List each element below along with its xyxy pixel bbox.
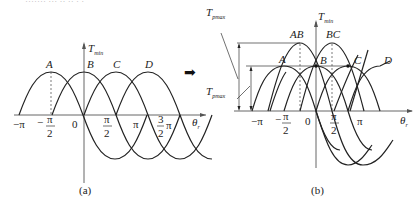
label-d: D [383, 54, 392, 66]
tick-pi: π [133, 118, 139, 130]
curve-d [348, 61, 390, 111]
curve-a [252, 66, 340, 150]
y-label-a: Tmin [88, 42, 103, 56]
caption-b: (b) [311, 184, 324, 197]
label-a: A [45, 58, 53, 70]
x-label-a: θr [192, 116, 200, 130]
graph-a: A B C D Tmin θr −π − π 2 0 π 2 π 3 2 π (… [13, 42, 212, 197]
tick-half-pi-den: 2 [104, 127, 110, 139]
curve-b [284, 66, 372, 150]
curve-rise-1 [270, 72, 286, 111]
label-b: B [320, 54, 327, 66]
caption-a: (a) [79, 184, 92, 197]
label-a: A [278, 53, 286, 65]
tick-neg-half-pi-den: 2 [283, 124, 289, 136]
tick-neg-sign: − [37, 116, 43, 128]
y-label-b: Tmin [318, 10, 333, 24]
x-axis-arrow-icon [407, 109, 413, 113]
label-tpmax-bottom: Tpmax [206, 85, 225, 99]
tick-three-half-num: 3 [158, 113, 164, 125]
curve-bc-low [316, 111, 372, 165]
arrow-up-icon [250, 66, 253, 71]
tick-half-pi-den: 2 [331, 124, 337, 136]
tick-neg-pi: −π [13, 118, 25, 130]
tick-half-pi-num: π [104, 113, 110, 125]
y-axis-arrow-icon [82, 42, 86, 49]
x-label-b: θr [400, 114, 408, 128]
leader-line [221, 33, 238, 79]
point-c [346, 64, 350, 68]
label-tpmax-top: Tpmax [206, 6, 225, 20]
tick-neg-half-pi-num: π [283, 110, 289, 122]
tick-neg-pi: −π [251, 115, 263, 127]
tick-pi: π [357, 115, 363, 127]
tick-neg-sign: − [275, 113, 281, 125]
figure-canvas: ······· ··· ·· ·· · · A B C D Tmin θr −π… [0, 0, 418, 206]
tick-three-half-pi: π [166, 119, 172, 131]
label-d: D [144, 58, 153, 70]
label-ab: AB [289, 28, 304, 40]
tick-neg-half-pi-num: π [47, 113, 53, 125]
right-arrow-icon: ➡ [184, 64, 196, 80]
label-c: C [354, 54, 362, 66]
cropped-top-text: ······· ··· ·· ·· · · [25, 0, 84, 6]
tick-three-half-den: 2 [158, 127, 164, 139]
label-c: C [113, 58, 121, 70]
label-b: B [87, 58, 94, 70]
x-axis-arrow-icon [200, 113, 206, 117]
tick-neg-half-pi-den: 2 [47, 127, 53, 139]
graph-b: Tpmax Tpmax [206, 6, 413, 197]
tick-zero: 0 [72, 118, 78, 130]
tick-zero: 0 [305, 115, 311, 127]
arrow-up-icon [238, 43, 241, 48]
label-bc: BC [326, 28, 341, 40]
arrow-down-icon [238, 106, 241, 111]
tick-half-pi-num: π [331, 110, 337, 122]
point-b [314, 64, 318, 68]
